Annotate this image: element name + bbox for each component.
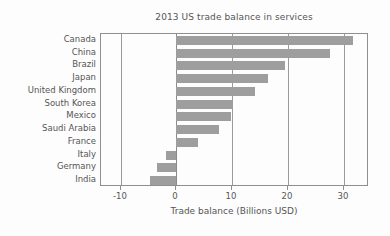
x-tick-mark — [231, 186, 232, 190]
bar — [166, 151, 176, 160]
x-tick-mark — [175, 186, 176, 190]
y-tick-label: Canada — [0, 34, 96, 44]
x-tick-label: -10 — [113, 191, 127, 201]
x-tick-label: 20 — [282, 191, 293, 201]
bar — [157, 163, 177, 172]
bar — [176, 112, 230, 121]
y-tick-label: Brazil — [0, 59, 96, 69]
bar — [176, 87, 255, 96]
bar — [176, 74, 268, 83]
y-tick-label: Germany — [0, 161, 96, 171]
bar — [176, 125, 219, 134]
bar — [176, 100, 233, 109]
y-tick-label: Saudi Arabia — [0, 123, 96, 133]
bar — [176, 61, 284, 70]
bar — [176, 138, 197, 147]
chart-figure: 2013 US trade balance in services Canada… — [0, 0, 390, 236]
x-tick-label: 30 — [338, 191, 349, 201]
x-tick-label: 0 — [172, 191, 177, 201]
plot-area — [100, 33, 368, 186]
x-axis-ticks: -100102030 — [100, 186, 368, 206]
bar — [176, 36, 353, 45]
y-tick-label: France — [0, 136, 96, 146]
x-axis-title: Trade balance (Billions USD) — [100, 206, 368, 216]
y-axis-tick-labels: CanadaChinaBrazilJapanUnited KingdomSout… — [0, 33, 96, 186]
y-tick-label: South Korea — [0, 98, 96, 108]
y-tick-label: Italy — [0, 149, 96, 159]
x-tick-mark — [287, 186, 288, 190]
x-tick-label: 10 — [226, 191, 237, 201]
chart-title: 2013 US trade balance in services — [100, 12, 368, 22]
x-tick-mark — [343, 186, 344, 190]
y-tick-label: China — [0, 47, 96, 57]
y-tick-label: India — [0, 174, 96, 184]
x-tick-mark — [120, 186, 121, 190]
bar — [150, 176, 177, 185]
y-tick-label: Mexico — [0, 110, 96, 120]
y-tick-label: United Kingdom — [0, 85, 96, 95]
y-tick-label: Japan — [0, 72, 96, 82]
bars-layer — [101, 34, 367, 185]
bar — [176, 49, 330, 58]
